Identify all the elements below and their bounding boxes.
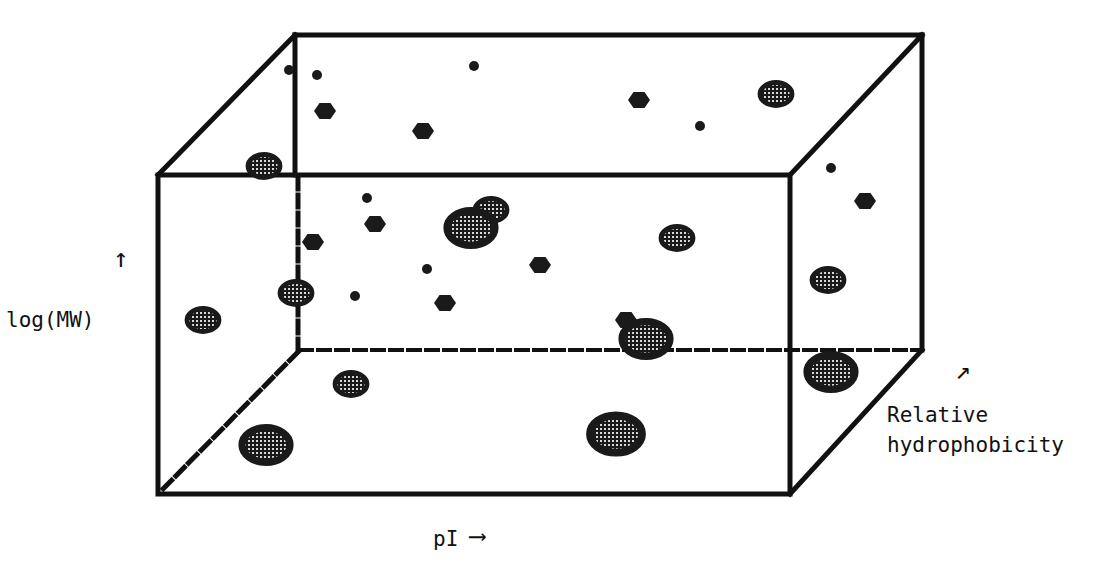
protein-spot (314, 103, 336, 119)
protein-spot (242, 428, 290, 463)
protein-spot (422, 264, 432, 274)
protein-spot (302, 234, 324, 250)
protein-spot (469, 61, 479, 71)
3d-box-diagram (0, 0, 1112, 581)
protein-spot (590, 415, 642, 452)
protein-spot (760, 82, 792, 105)
protein-spot (248, 154, 280, 177)
protein-spot (529, 257, 551, 273)
protein-spot (661, 226, 693, 249)
y-axis-arrow-icon: ↑ (113, 246, 129, 270)
x-axis-label: pI (433, 527, 458, 551)
protein-spot (447, 211, 495, 246)
protein-spot (434, 295, 456, 311)
protein-spot (187, 308, 219, 331)
z-axis-label-line2: hydrophobicity (887, 433, 1064, 457)
protein-spot (412, 123, 434, 139)
protein-spot (622, 322, 670, 357)
protein-spot (854, 193, 876, 209)
protein-spot (695, 121, 705, 131)
protein-spots (187, 61, 876, 462)
protein-spot (312, 70, 322, 80)
protein-spot (628, 92, 650, 108)
x-axis-arrow-icon: ⟶ (470, 524, 484, 548)
protein-spot (812, 268, 844, 291)
protein-spot (826, 163, 836, 173)
protein-spot (335, 372, 367, 395)
protein-spot (364, 216, 386, 232)
protein-spot (280, 281, 312, 304)
protein-spot (350, 291, 360, 301)
protein-spot (807, 355, 855, 390)
y-axis-label: log(MW) (6, 308, 95, 332)
protein-spot (284, 65, 294, 75)
protein-spot (362, 193, 372, 203)
z-axis-arrow-icon: ↗ (955, 358, 971, 382)
z-axis-label-line1: Relative (887, 403, 988, 427)
